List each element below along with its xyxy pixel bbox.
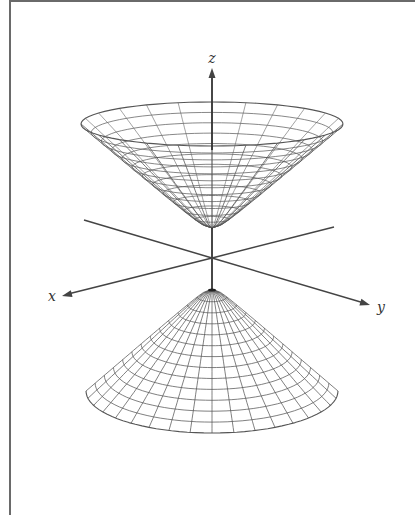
x-axis-label: x <box>48 288 56 304</box>
coordinate-axes <box>62 68 370 306</box>
figure-frame: z x y <box>0 0 415 515</box>
x-axis <box>68 258 212 294</box>
y-axis <box>212 258 364 303</box>
upper-meridian <box>212 124 343 228</box>
negative-x-axis <box>212 227 334 258</box>
lower-vertex-mark <box>208 288 216 291</box>
hyperboloid-plot: z x y <box>0 0 415 515</box>
negative-y-axis <box>84 220 212 258</box>
lower-sheet-mesh <box>86 289 338 433</box>
x-arrowhead-icon <box>62 290 73 297</box>
y-axis-label: y <box>376 299 386 315</box>
z-axis-label: z <box>207 50 216 66</box>
y-arrowhead-icon <box>359 299 370 306</box>
upper-meridian <box>81 124 212 228</box>
z-arrowhead-icon <box>209 68 216 78</box>
